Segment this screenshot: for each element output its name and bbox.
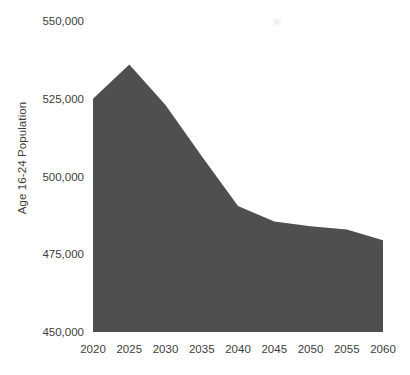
- y-tick-label: 550,000: [0, 14, 84, 28]
- y-tick-label: 450,000: [0, 325, 84, 339]
- y-axis-title: Age 16-24 Population: [16, 102, 28, 215]
- x-tick-label: 2030: [146, 342, 186, 356]
- y-tick-label: 475,000: [0, 247, 84, 261]
- x-tick-label: 2050: [291, 342, 331, 356]
- x-tick-label: 2040: [218, 342, 258, 356]
- plot-canvas: [0, 0, 410, 375]
- x-tick-label: 2055: [327, 342, 367, 356]
- population-area-shape: [93, 65, 383, 333]
- smudge-artifact: [272, 17, 282, 27]
- y-tick-label: 500,000: [0, 170, 84, 184]
- population-area-chart: Age 16-24 Population 450,000475,000500,0…: [0, 0, 410, 375]
- x-tick-label: 2035: [182, 342, 222, 356]
- x-tick-label: 2020: [73, 342, 113, 356]
- x-tick-label: 2060: [363, 342, 403, 356]
- x-tick-label: 2045: [254, 342, 294, 356]
- y-tick-label: 525,000: [0, 92, 84, 106]
- x-tick-label: 2025: [109, 342, 149, 356]
